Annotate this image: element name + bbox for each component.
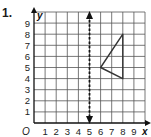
y-tick-label: 4 [25, 73, 30, 84]
y-tick-label: 1 [25, 106, 30, 117]
y-axis-label: y [36, 10, 43, 21]
coordinate-grid: 123456789123456789 y x O [0, 0, 151, 137]
x-tick-label: 9 [131, 126, 136, 137]
y-tick-label: 8 [25, 29, 30, 40]
y-tick-label: 3 [25, 84, 30, 95]
y-tick-label: 5 [25, 62, 30, 73]
x-tick-label: 4 [76, 126, 81, 137]
x-tick-label: 6 [98, 126, 103, 137]
x-tick-label: 1 [42, 126, 47, 137]
x-tick-label: 5 [87, 126, 92, 137]
x-axis-label: x [141, 126, 148, 137]
y-tick-label: 9 [25, 18, 30, 29]
y-tick-label: 2 [25, 95, 30, 106]
x-tick-label: 3 [65, 126, 70, 137]
origin-label: O [22, 126, 30, 137]
axes [31, 7, 151, 126]
y-tick-label: 7 [25, 40, 30, 51]
y-tick-label: 6 [25, 51, 30, 62]
x-tick-label: 8 [120, 126, 125, 137]
x-tick-label: 7 [109, 126, 114, 137]
x-tick-label: 2 [54, 126, 59, 137]
